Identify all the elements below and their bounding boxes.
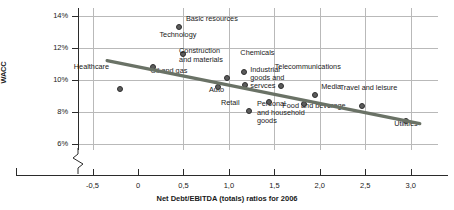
data-point-label: Media	[321, 83, 341, 91]
x-tick-mark	[320, 169, 321, 175]
x-tick-label: 2,5	[360, 181, 370, 190]
y-tick-label: 8%	[44, 107, 68, 116]
data-point	[278, 83, 284, 89]
y-axis-line	[78, 8, 79, 150]
data-point-label: Basic resources	[186, 15, 238, 23]
y-tick-mark	[72, 16, 78, 17]
data-point-label: Travel and leisure	[340, 84, 398, 92]
scatter-chart: WACC 6%8%10%12%14%-0,500,51,01,52,02,53,…	[0, 0, 454, 210]
data-point	[246, 108, 252, 114]
data-point-label: Construction and materials	[179, 47, 223, 64]
data-point	[403, 118, 409, 124]
gridline-vertical	[93, 8, 94, 150]
data-point	[215, 84, 221, 90]
data-point-label: Food and beverage	[282, 102, 345, 110]
x-tick-mark	[183, 169, 184, 175]
x-tick-label: 0	[136, 181, 140, 190]
data-point-label: Chemicals	[240, 49, 274, 57]
data-point-label: Healthcare	[74, 63, 109, 71]
x-tick-label: 3,0	[406, 181, 416, 190]
data-point-label: Retail	[221, 99, 240, 107]
y-tick-mark	[72, 48, 78, 49]
x-tick-label: 2,0	[315, 181, 325, 190]
gridline-vertical	[320, 8, 321, 150]
y-tick-label: 10%	[44, 75, 68, 84]
x-tick-mark	[138, 169, 139, 175]
data-point	[242, 82, 248, 88]
data-point-label: Telecommunications	[275, 63, 341, 71]
data-point	[150, 64, 156, 70]
data-point	[224, 75, 230, 81]
gridline-vertical	[411, 8, 412, 150]
y-tick-label: 12%	[44, 43, 68, 52]
y-axis-title: WACC	[0, 61, 8, 83]
data-point	[359, 103, 365, 109]
x-tick-label: 1,5	[269, 181, 279, 190]
x-tick-mark	[365, 169, 366, 175]
y-tick-mark	[72, 112, 78, 113]
x-axis-title: Net Debt/EBITDA (totals) ratios for 2006	[0, 194, 454, 203]
y-tick-label: 6%	[44, 139, 68, 148]
x-tick-mark	[229, 169, 230, 175]
gridline-vertical	[365, 8, 366, 150]
x-axis-line	[16, 175, 448, 176]
gridline-horizontal	[78, 16, 438, 17]
x-tick-mark	[411, 169, 412, 175]
data-point	[117, 86, 123, 92]
x-tick-mark	[93, 169, 94, 175]
y-tick-label: 14%	[44, 11, 68, 20]
data-point	[266, 99, 272, 105]
data-point	[312, 92, 318, 98]
y-axis-break-icon	[70, 148, 86, 174]
x-tick-label: 0,5	[178, 181, 188, 190]
data-point-label: Technology	[159, 31, 196, 39]
y-tick-mark	[72, 144, 78, 145]
x-tick-mark	[274, 169, 275, 175]
data-point	[301, 101, 307, 107]
x-tick-label: -0,5	[86, 181, 99, 190]
y-tick-mark	[72, 80, 78, 81]
x-axis-left-cap	[16, 168, 17, 176]
data-point	[176, 24, 182, 30]
gridline-horizontal	[78, 144, 438, 145]
x-tick-label: 1,0	[224, 181, 234, 190]
data-point	[241, 69, 247, 75]
